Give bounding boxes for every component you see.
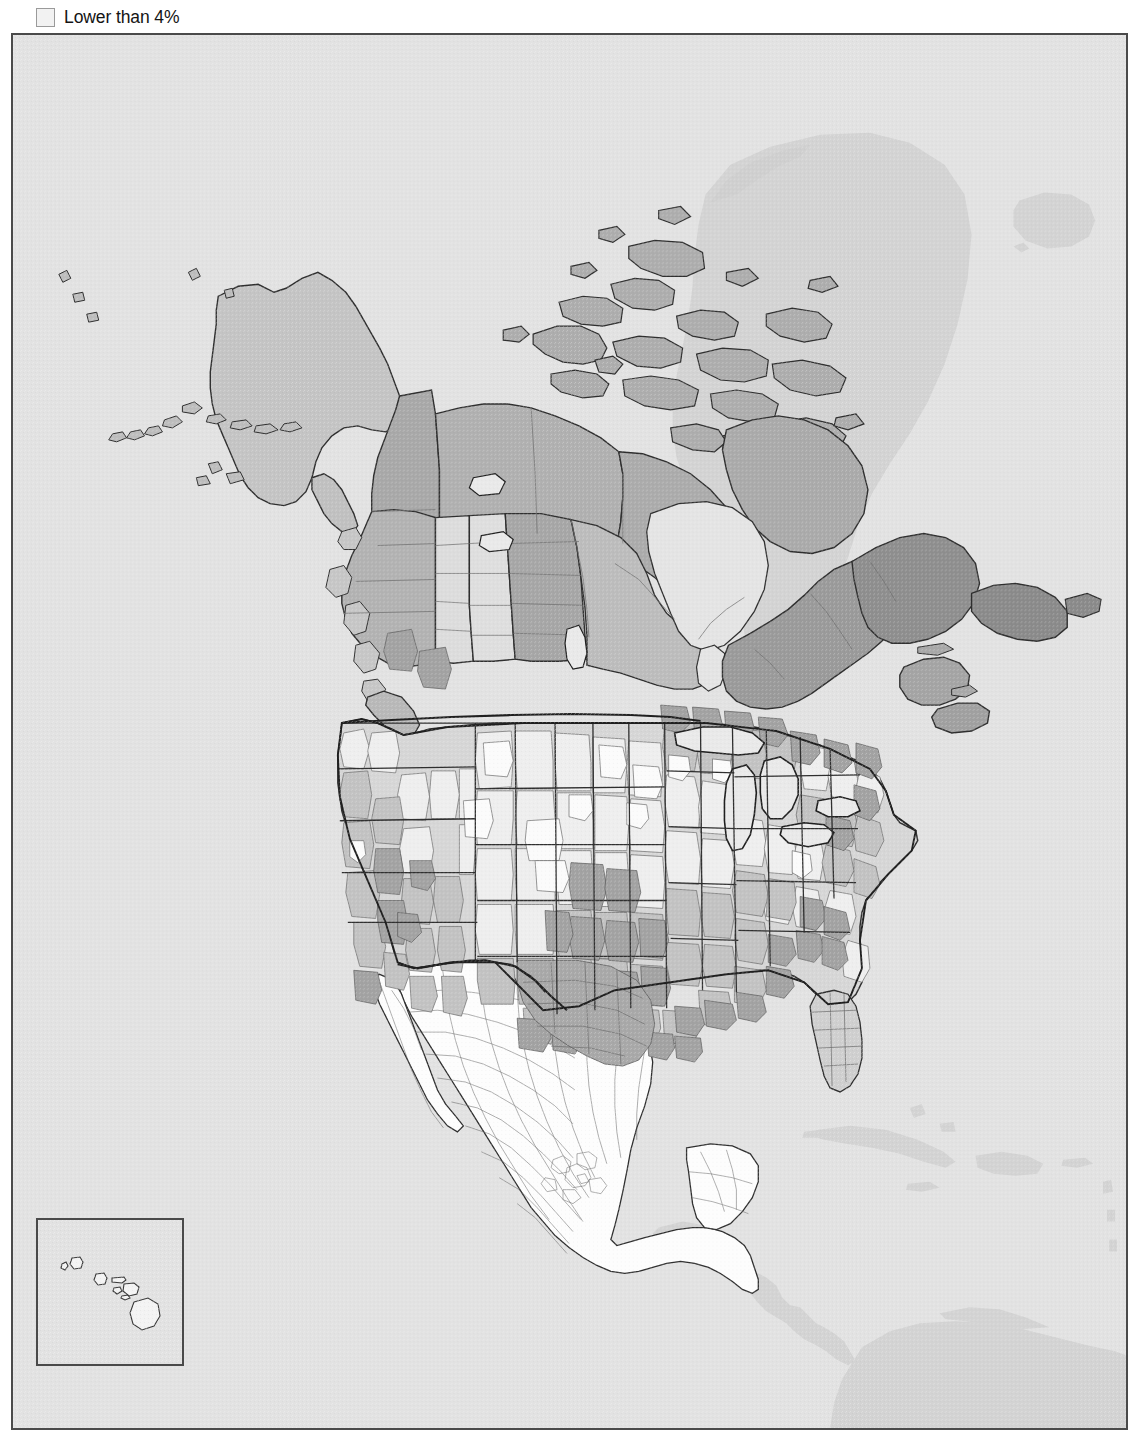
island-oahu[interactable] xyxy=(94,1273,107,1285)
lake-erie xyxy=(780,823,834,847)
great-bear-lake xyxy=(469,474,505,496)
hawaii-inset-svg xyxy=(38,1220,182,1364)
lake-ontario xyxy=(816,797,860,817)
lake-huron xyxy=(760,757,798,819)
hawaii-inset-background xyxy=(38,1220,182,1364)
legend-item-label: Lower than 4% xyxy=(64,8,179,27)
map-legend: Lower than 4% xyxy=(36,4,179,30)
island-kauai[interactable] xyxy=(70,1257,83,1269)
island-molokai[interactable] xyxy=(112,1277,126,1283)
region-alberta[interactable] xyxy=(435,516,473,664)
hawaii-inset-box[interactable] xyxy=(36,1218,184,1366)
legend-swatch-icon xyxy=(36,8,55,27)
